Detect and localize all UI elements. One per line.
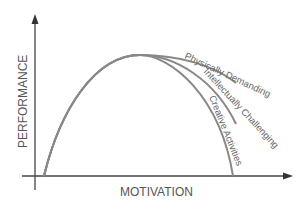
inverted-u-diagram: Physically Demanding Intellectually Chal… bbox=[0, 0, 306, 206]
y-axis-label: PERFORMANCE bbox=[16, 55, 30, 148]
x-axis-label: MOTIVATION bbox=[120, 185, 193, 199]
y-axis-arrow-icon bbox=[32, 14, 39, 24]
x-axis-arrow-icon bbox=[283, 173, 293, 180]
